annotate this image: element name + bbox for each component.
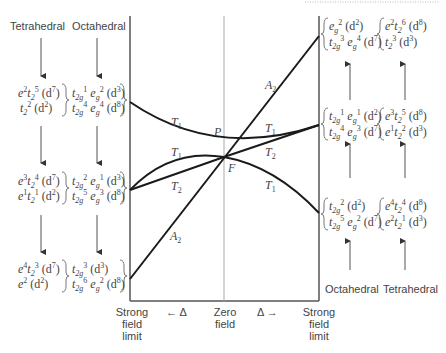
left-bot-tet-term-2: e2 (d2) <box>18 277 48 291</box>
right-limit-label: Strongfieldlimit <box>299 306 339 342</box>
zero-field-label: Zerofield <box>205 306 245 330</box>
header-left-tetrahedral: Tetrahedral <box>10 20 65 32</box>
left-mid-oct-term-1: t2g2 eg1 (d3) <box>72 174 125 188</box>
left-top-oct-term-1: t2g1 eg2 (d3) <box>72 86 125 100</box>
left-bot-tet-term-1: e4t23 (d7) <box>18 262 60 276</box>
header-right-octahedral: Octahedral <box>325 283 379 295</box>
label-t1-right-lower: T1 <box>265 178 276 194</box>
label-t2-right: T2 <box>265 145 276 161</box>
right-top-oct-term-2: t2g3 eg4 (d7) <box>329 35 382 49</box>
label-t1-upper-left: T1 <box>171 115 182 131</box>
left-bot-oct-term-2: t2g6 eg2 (d8) <box>72 277 125 291</box>
right-top-tet-term-2: t23 (d3) <box>385 35 417 49</box>
delta-right-label: Δ → <box>257 306 278 318</box>
left-mid-tet-term-2: e1t21 (d2) <box>18 189 60 203</box>
right-mid-oct-term-1: t2g1 eg1 (d2) <box>329 109 382 123</box>
header-left-octahedral: Octahedral <box>72 20 126 32</box>
right-mid-oct-term-2: t2g4 eg3 (d7) <box>329 125 382 139</box>
label-point-p: P <box>214 125 221 140</box>
diagram-graphics <box>0 0 446 353</box>
delta-left-label: ← Δ <box>166 306 187 318</box>
label-t1-mid-left: T1 <box>171 145 182 161</box>
right-bot-oct-term-1: t2g2 (d2) <box>329 199 365 213</box>
left-limit-label: Strongfieldlimit <box>112 306 152 342</box>
right-mid-tet-term-1: e3t25 (d8) <box>385 109 427 123</box>
right-mid-tet-term-2: e1t22 (d3) <box>385 125 427 139</box>
right-top-tet-term-1: e2t26 (d8) <box>385 19 427 33</box>
correlation-diagram: Tetrahedral Octahedral Octahedral Tetrah… <box>0 0 446 353</box>
label-a2-lower: A2 <box>170 229 181 245</box>
left-bot-oct-term-1: t2g3 (d3) <box>72 262 108 276</box>
label-t2-left: T2 <box>171 179 182 195</box>
left-mid-tet-term-1: e3t24 (d7) <box>18 174 60 188</box>
right-bot-oct-term-2: t2g5 eg2 (d7) <box>329 215 382 229</box>
right-bot-tet-term-1: e4t24 (d8) <box>385 199 427 213</box>
label-t1-right-upper: T1 <box>265 121 276 137</box>
label-point-f: F <box>228 161 235 176</box>
left-top-tet-term-1: e2t25 (d7) <box>18 86 60 100</box>
left-mid-oct-term-2: t2g5 eg3 (d8) <box>72 189 125 203</box>
label-a2-upper: A2 <box>265 78 276 94</box>
header-right-tetrahedral: Tetrahedral <box>383 283 438 295</box>
left-top-oct-term-2: t2g4 eg4 (d8) <box>72 101 125 115</box>
left-top-tet-term-2: t22 (d2) <box>20 101 52 115</box>
right-bot-tet-term-2: e2t21 (d3) <box>385 215 427 229</box>
right-top-oct-term-1: eg2 (d2) <box>329 19 363 33</box>
